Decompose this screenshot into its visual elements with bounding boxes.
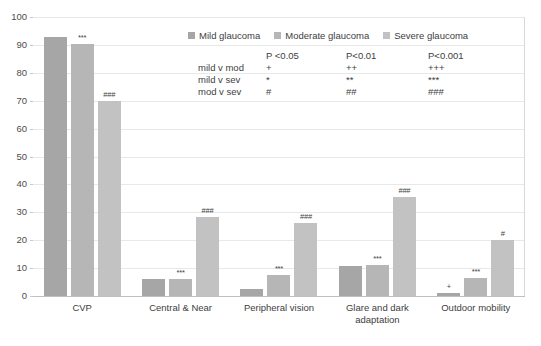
sig-key-row: mild v sev****** [198,74,488,86]
legend-swatch-icon [383,32,390,39]
bar-significance-label: ### [190,207,225,215]
y-axis-label: 20 [0,235,27,245]
sig-key-cell: ## [346,86,428,98]
sig-key-cell: # [266,86,346,98]
bar-significance-label: *** [360,255,395,263]
legend-label: Mild glaucoma [199,30,260,41]
x-axis-category-label: Peripheral vision [230,302,328,314]
y-axis-label: 0 [0,291,27,301]
bar-significance-label: + [431,283,466,291]
bar-group: ***### [33,17,131,296]
sig-key-cell: + [266,62,346,74]
sig-key-cell: *** [428,74,488,86]
bar[interactable] [464,278,487,296]
x-axis-category-label: Outdoor mobility [427,302,525,314]
y-axis-label: 40 [0,179,27,189]
sig-key-header-p001: P<0.01 [346,50,428,62]
bar[interactable] [44,37,67,296]
bar-significance-label: *** [458,268,493,276]
legend-item[interactable]: Mild glaucoma [188,30,260,41]
legend-item[interactable]: Moderate glaucoma [274,30,369,41]
legend-label: Severe glaucoma [394,30,468,41]
y-axis-label: 10 [0,263,27,273]
sig-key-row-label: mild v mod [198,62,266,74]
sig-key-cell: ### [428,86,488,98]
legend-swatch-icon [188,32,195,39]
bar[interactable] [267,275,290,296]
bar[interactable] [169,279,192,296]
bar[interactable] [98,101,121,296]
legend-label: Moderate glaucoma [285,30,369,41]
y-axis-label: 60 [0,124,27,134]
sig-key-corner [198,50,266,62]
y-axis-label: 50 [0,152,27,162]
plot-right-border [524,17,525,296]
sig-key-cell: ++ [346,62,428,74]
bar[interactable] [339,266,362,296]
sig-key-cell: * [266,74,346,86]
x-axis-line [33,296,525,297]
bar[interactable] [196,217,219,297]
legend-item[interactable]: Severe glaucoma [383,30,468,41]
bar-significance-label: ### [387,187,422,195]
y-axis-label: 70 [0,96,27,106]
bar[interactable] [393,197,416,296]
bar[interactable] [366,265,389,296]
chart-legend: Mild glaucomaModerate glaucomaSevere gla… [188,30,508,41]
bar-significance-label: *** [163,269,198,277]
bar-significance-label: # [485,230,520,238]
bar[interactable] [240,289,263,296]
x-axis-category-label: CVP [33,302,131,314]
y-axis-label: 90 [0,40,27,50]
bar[interactable] [491,240,514,296]
bar-chart: 0102030405060708090100 ***###***###***##… [0,0,541,346]
sig-key-row: mild v mod++++++ [198,62,488,74]
bar-significance-label: ### [288,213,323,221]
sig-key-row: mod v sev###### [198,86,488,98]
sig-key-cell: ** [346,74,428,86]
bar-significance-label: ### [92,91,127,99]
sig-key-row-label: mild v sev [198,74,266,86]
sig-key-header-p005: P <0.05 [266,50,346,62]
y-axis-label: 80 [0,68,27,78]
bar[interactable] [294,223,317,296]
sig-key-header-p0001: P<0.001 [428,50,488,62]
bar-significance-label: *** [261,265,296,273]
x-axis-category-label: Central & Near [131,302,229,314]
y-axis-label: 100 [0,12,27,22]
sig-key-row-label: mod v sev [198,86,266,98]
y-axis-label: 30 [0,207,27,217]
sig-key-cell: +++ [428,62,488,74]
legend-swatch-icon [274,32,281,39]
x-axis-category-label: Glare and dark adaptation [328,302,426,326]
sig-key-header-row: P <0.05 P<0.01 P<0.001 [198,50,488,62]
bar[interactable] [71,44,94,296]
bar-significance-label: *** [65,34,100,42]
bar[interactable] [142,279,165,296]
significance-key-table: P <0.05 P<0.01 P<0.001 mild v mod++++++m… [198,50,488,98]
